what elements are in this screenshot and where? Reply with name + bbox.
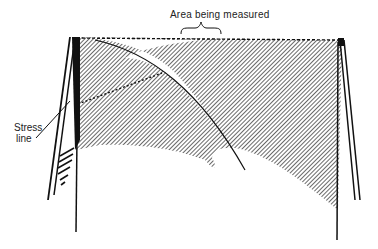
measure-brace bbox=[181, 22, 221, 34]
stress-label-line2: line bbox=[14, 133, 42, 144]
stress-line-label: Stress line bbox=[14, 122, 42, 144]
membrane bbox=[58, 37, 342, 210]
stress-label-line1: Stress bbox=[14, 122, 42, 133]
area-measured-label: Area being measured bbox=[170, 9, 269, 20]
membrane-diagram bbox=[0, 0, 378, 249]
